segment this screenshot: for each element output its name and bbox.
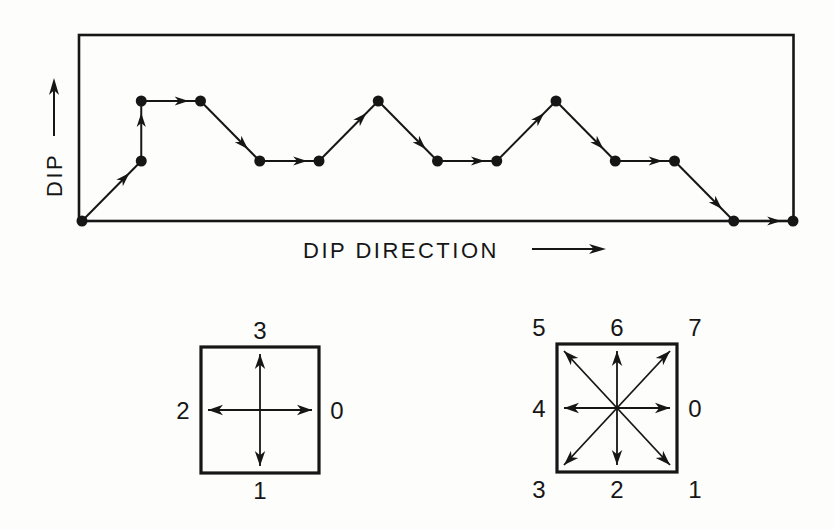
chain-segment-3 (201, 101, 260, 161)
chain-point-0 (77, 216, 88, 227)
chain-point-12 (728, 216, 739, 227)
chain-point-8 (491, 156, 502, 167)
y-axis-label-group: DIP (42, 86, 67, 197)
dip-profile-plot: DIP DIP DIRECTION (42, 35, 799, 263)
chain-point-10 (610, 156, 621, 167)
code4-digit-1: 1 (253, 477, 266, 504)
chain-segment-5 (319, 101, 378, 161)
x-axis-label: DIP DIRECTION (303, 238, 499, 263)
code8-digit-1: 1 (688, 476, 701, 503)
code8-digit-0: 0 (688, 395, 701, 422)
chain-segment-8 (497, 101, 556, 161)
code8-digit-3: 3 (532, 476, 545, 503)
chain-point-13 (788, 216, 799, 227)
axis-arrowheads (49, 78, 606, 254)
chain-point-6 (373, 96, 384, 107)
four-direction-code-key: 0123 (176, 317, 343, 504)
chain-point-3 (195, 96, 206, 107)
code8-digit-7: 7 (688, 314, 701, 341)
code4-digit-2: 2 (176, 397, 189, 424)
code8-digit-4: 4 (532, 395, 545, 422)
chain-point-5 (314, 156, 325, 167)
chain-point-9 (551, 96, 562, 107)
chain-point-2 (136, 96, 147, 107)
chain-point-1 (136, 156, 147, 167)
code4-digit-3: 3 (253, 317, 266, 344)
chain-coded-polyline (77, 96, 799, 227)
code8-digit-6: 6 (610, 314, 623, 341)
chain-segment-6 (378, 101, 437, 161)
plot-frame (79, 35, 794, 221)
chain-code-figure: DIP DIP DIRECTION 0123 01234567 (0, 0, 834, 529)
figure-canvas: DIP DIP DIRECTION 0123 01234567 (0, 0, 834, 529)
code8-arrow-NE (617, 351, 670, 408)
y-axis-label: DIP (42, 153, 67, 197)
eight-direction-code-key: 01234567 (532, 314, 701, 503)
code8-arrow-SW (564, 408, 617, 465)
code8-digit-5: 5 (532, 314, 545, 341)
x-axis-label-group: DIP DIRECTION (303, 238, 594, 263)
chain-point-7 (432, 156, 443, 167)
code8-arrow-SE (617, 408, 670, 465)
chain-segment-0 (82, 161, 141, 221)
chain-segment-11 (675, 161, 734, 221)
code8-digit-2: 2 (610, 476, 623, 503)
chain-segment-9 (556, 101, 615, 161)
chain-point-4 (254, 156, 265, 167)
chain-point-11 (669, 156, 680, 167)
code8-arrow-NW (564, 351, 617, 408)
code4-digit-0: 0 (330, 397, 343, 424)
